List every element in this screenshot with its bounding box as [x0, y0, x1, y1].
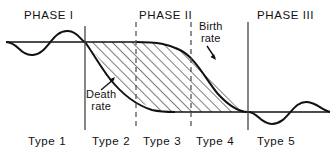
type-label-3: Type 3 [143, 135, 181, 147]
transition-curves-svg [0, 0, 334, 157]
type-label-1: Type 1 [28, 135, 66, 147]
death-rate-label-line1: Death [86, 88, 116, 100]
death-rate-label-line2: rate [86, 100, 116, 112]
type-label-4: Type 4 [196, 135, 234, 147]
phase-label-3: PHASE III [257, 9, 314, 21]
birth-rate-label: Birth rate [199, 20, 223, 44]
type-label-2: Type 2 [92, 135, 130, 147]
type-label-5: Type 5 [257, 135, 295, 147]
birth-rate-label-line1: Birth [199, 20, 223, 32]
demographic-transition-figure: PHASE I PHASE II PHASE III Death rate Bi… [0, 0, 334, 157]
birth-rate-label-line2: rate [199, 32, 223, 44]
death-rate-label: Death rate [86, 88, 116, 112]
phase-label-1: PHASE I [24, 9, 74, 21]
birth-death-wave-left [6, 31, 85, 55]
birth-death-wave-right [248, 102, 330, 124]
birth-rate-leader-arrow [207, 46, 216, 60]
phase-label-2: PHASE II [139, 9, 192, 21]
